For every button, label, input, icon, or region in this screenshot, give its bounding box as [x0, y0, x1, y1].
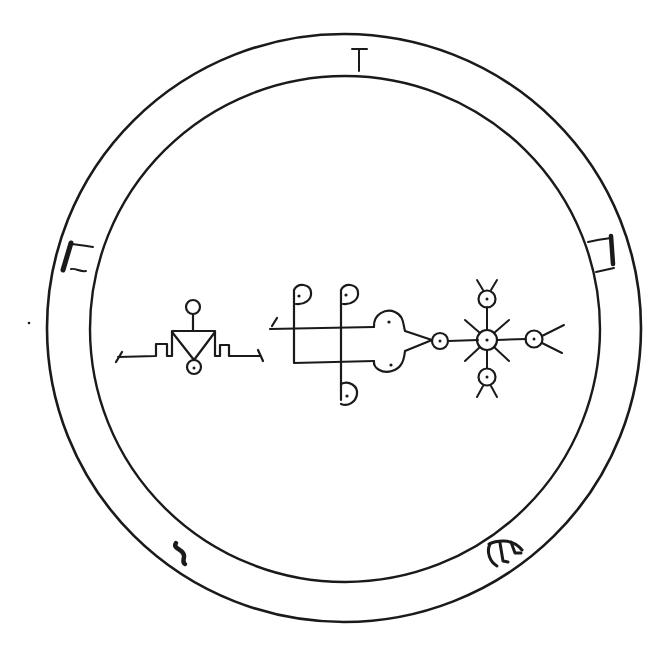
paper-speck — [28, 322, 31, 325]
seal-figure — [0, 0, 665, 651]
background — [0, 0, 665, 651]
